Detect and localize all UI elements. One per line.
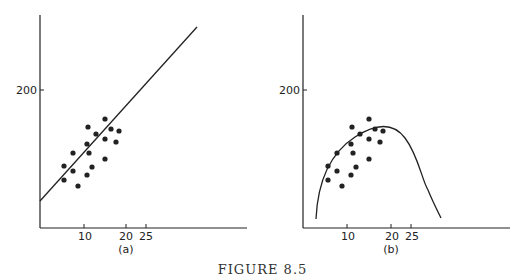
x-tick-25-b: 25 (405, 230, 419, 243)
data-points-b (325, 116, 385, 188)
x-tick-25-a: 25 (139, 230, 153, 243)
data-points-a (61, 116, 121, 188)
figure-caption: FIGURE 8.5 (0, 262, 525, 277)
panel-label-b: (b) (383, 243, 399, 256)
panel-b: 200 10 20 25 (b) (279, 15, 510, 256)
x-tick-20-a: 20 (119, 230, 133, 243)
y-tick-200-a: 200 (16, 84, 37, 97)
x-tick-10-b: 10 (341, 230, 355, 243)
x-tick-10-a: 10 (78, 230, 92, 243)
panel-label-a: (a) (118, 243, 133, 256)
fit-line-a (40, 27, 197, 201)
x-tick-20-b: 20 (385, 230, 399, 243)
panel-a: 200 10 20 25 (a) (16, 15, 247, 256)
y-tick-200-b: 200 (279, 84, 300, 97)
